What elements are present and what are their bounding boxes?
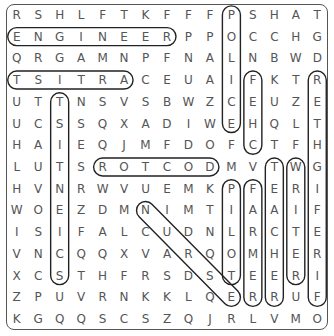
- grid-cell[interactable]: V: [6, 243, 27, 265]
- grid-cell[interactable]: N: [49, 178, 70, 200]
- grid-cell[interactable]: D: [178, 134, 199, 156]
- grid-cell[interactable]: F: [113, 265, 134, 287]
- grid-cell[interactable]: T: [264, 156, 285, 178]
- grid-cell[interactable]: M: [113, 200, 134, 222]
- grid-cell[interactable]: A: [199, 47, 220, 69]
- grid-cell[interactable]: O: [221, 243, 242, 265]
- grid-cell[interactable]: W: [199, 113, 220, 135]
- grid-cell[interactable]: G: [307, 156, 328, 178]
- grid-cell[interactable]: F: [221, 134, 242, 156]
- grid-cell[interactable]: L: [6, 156, 27, 178]
- grid-cell[interactable]: N: [135, 200, 156, 222]
- grid-cell[interactable]: U: [264, 91, 285, 113]
- grid-cell[interactable]: M: [221, 156, 242, 178]
- grid-cell[interactable]: T: [70, 69, 91, 91]
- grid-cell[interactable]: C: [264, 221, 285, 243]
- grid-cell[interactable]: D: [92, 200, 113, 222]
- grid-cell[interactable]: K: [135, 287, 156, 309]
- grid-cell[interactable]: I: [156, 200, 177, 222]
- grid-cell[interactable]: A: [27, 134, 48, 156]
- grid-cell[interactable]: Q: [92, 134, 113, 156]
- grid-cell[interactable]: T: [113, 4, 134, 26]
- grid-cell[interactable]: E: [307, 91, 328, 113]
- grid-cell[interactable]: S: [49, 113, 70, 135]
- grid-cell[interactable]: H: [307, 134, 328, 156]
- grid-cell[interactable]: T: [285, 221, 306, 243]
- grid-cell[interactable]: C: [27, 265, 48, 287]
- grid-cell[interactable]: R: [307, 243, 328, 265]
- grid-cell[interactable]: T: [221, 265, 242, 287]
- grid-cell[interactable]: F: [199, 4, 220, 26]
- grid-cell[interactable]: E: [156, 69, 177, 91]
- grid-cell[interactable]: N: [27, 26, 48, 48]
- grid-cell[interactable]: I: [285, 200, 306, 222]
- grid-cell[interactable]: H: [6, 134, 27, 156]
- grid-cell[interactable]: S: [92, 308, 113, 330]
- grid-cell[interactable]: F: [307, 200, 328, 222]
- grid-cell[interactable]: C: [135, 221, 156, 243]
- grid-cell[interactable]: V: [135, 243, 156, 265]
- grid-cell[interactable]: W: [285, 47, 306, 69]
- grid-cell[interactable]: E: [264, 178, 285, 200]
- grid-cell[interactable]: A: [242, 200, 263, 222]
- grid-cell[interactable]: V: [113, 91, 134, 113]
- grid-cell[interactable]: F: [156, 47, 177, 69]
- grid-cell[interactable]: C: [156, 156, 177, 178]
- grid-cell[interactable]: F: [92, 4, 113, 26]
- grid-cell[interactable]: C: [221, 91, 242, 113]
- grid-cell[interactable]: N: [27, 243, 48, 265]
- grid-cell[interactable]: E: [113, 26, 134, 48]
- grid-cell[interactable]: H: [285, 26, 306, 48]
- grid-cell[interactable]: O: [199, 134, 220, 156]
- grid-cell[interactable]: T: [70, 265, 91, 287]
- grid-cell[interactable]: R: [156, 26, 177, 48]
- grid-cell[interactable]: H: [264, 4, 285, 26]
- grid-cell[interactable]: N: [113, 287, 134, 309]
- grid-cell[interactable]: N: [70, 91, 91, 113]
- grid-cell[interactable]: K: [264, 69, 285, 91]
- grid-cell[interactable]: W: [92, 178, 113, 200]
- grid-cell[interactable]: K: [199, 178, 220, 200]
- grid-cell[interactable]: E: [135, 26, 156, 48]
- grid-cell[interactable]: N: [199, 221, 220, 243]
- grid-cell[interactable]: S: [156, 265, 177, 287]
- grid-cell[interactable]: P: [27, 287, 48, 309]
- grid-cell[interactable]: C: [264, 26, 285, 48]
- grid-cell[interactable]: R: [285, 178, 306, 200]
- grid-cell[interactable]: U: [156, 221, 177, 243]
- grid-cell[interactable]: V: [27, 178, 48, 200]
- grid-cell[interactable]: Q: [92, 243, 113, 265]
- grid-cell[interactable]: E: [221, 287, 242, 309]
- grid-cell[interactable]: T: [285, 69, 306, 91]
- grid-cell[interactable]: M: [178, 200, 199, 222]
- grid-cell[interactable]: O: [27, 200, 48, 222]
- grid-cell[interactable]: D: [199, 156, 220, 178]
- grid-cell[interactable]: S: [135, 91, 156, 113]
- grid-cell[interactable]: W: [178, 91, 199, 113]
- grid-cell[interactable]: E: [307, 221, 328, 243]
- grid-cell[interactable]: T: [135, 156, 156, 178]
- grid-cell[interactable]: E: [285, 243, 306, 265]
- grid-cell[interactable]: U: [27, 156, 48, 178]
- grid-cell[interactable]: Q: [70, 243, 91, 265]
- grid-cell[interactable]: D: [178, 221, 199, 243]
- grid-cell[interactable]: R: [178, 243, 199, 265]
- grid-cell[interactable]: Q: [92, 113, 113, 135]
- grid-cell[interactable]: N: [178, 47, 199, 69]
- grid-cell[interactable]: V: [264, 308, 285, 330]
- grid-cell[interactable]: J: [113, 134, 134, 156]
- grid-cell[interactable]: X: [113, 243, 134, 265]
- grid-cell[interactable]: B: [156, 91, 177, 113]
- grid-cell[interactable]: B: [264, 47, 285, 69]
- grid-cell[interactable]: R: [70, 178, 91, 200]
- grid-cell[interactable]: Z: [199, 91, 220, 113]
- grid-cell[interactable]: W: [285, 156, 306, 178]
- grid-cell[interactable]: A: [92, 221, 113, 243]
- grid-cell[interactable]: N: [242, 47, 263, 69]
- grid-cell[interactable]: U: [135, 178, 156, 200]
- grid-cell[interactable]: G: [49, 47, 70, 69]
- grid-cell[interactable]: D: [307, 47, 328, 69]
- grid-cell[interactable]: E: [242, 91, 263, 113]
- grid-cell[interactable]: I: [49, 69, 70, 91]
- grid-cell[interactable]: F: [307, 287, 328, 309]
